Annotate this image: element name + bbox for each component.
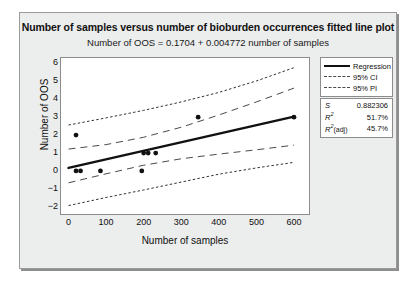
x-axis-title: Number of samples [61, 235, 309, 246]
y-tick-label: −1 [36, 184, 58, 193]
y-tick-label: −2 [36, 202, 58, 211]
x-tick-label: 400 [204, 218, 234, 227]
data-point [74, 169, 79, 174]
y-tick-label: 2 [36, 130, 58, 139]
chart-title: Number of samples versus number of biobu… [20, 21, 396, 33]
chart-panel: Number of samples versus number of biobu… [19, 12, 397, 269]
y-tick-label: 0 [36, 166, 58, 175]
stats-box: S0.882306R251.7%R2(adj)45.7% [320, 98, 393, 138]
stat-value: 45.7% [367, 124, 388, 134]
pi-bands [69, 68, 294, 206]
y-axis-tick-labels: 6543210−1−2 [32, 57, 58, 214]
stat-value: 51.7% [367, 113, 388, 123]
x-tick-label: 200 [129, 218, 159, 227]
plot-area [60, 57, 310, 215]
stat-key: S [325, 101, 330, 111]
ci-lower-curve [69, 145, 294, 183]
stat-value: 0.882306 [357, 101, 388, 111]
data-point [196, 115, 201, 120]
legend-item[interactable]: Regression [324, 61, 389, 71]
x-tick-label: 500 [241, 218, 271, 227]
data-point [146, 151, 151, 156]
data-point [141, 151, 146, 156]
legend-item[interactable]: 95% PI [324, 83, 389, 93]
legend: Regression95% CI95% PI [320, 57, 393, 97]
legend-label: Regression [353, 62, 391, 71]
legend-swatch-solid [324, 62, 350, 70]
pi-lower-curve [69, 162, 294, 205]
y-tick-label: 1 [36, 148, 58, 157]
stat-key: R2 [325, 111, 333, 123]
stat-key: R2(adj) [325, 123, 348, 135]
data-point [153, 151, 158, 156]
legend-item[interactable]: 95% CI [324, 72, 389, 82]
x-tick-label: 300 [166, 218, 196, 227]
x-axis-tick-labels: 0100200300400500600 [61, 218, 309, 230]
legend-label: 95% CI [353, 73, 378, 82]
legend-label: 95% PI [353, 84, 377, 93]
x-tick-label: 100 [91, 218, 121, 227]
stat-row: R251.7% [325, 111, 388, 123]
plot-canvas [61, 58, 309, 214]
data-point [78, 169, 83, 174]
data-point [98, 169, 103, 174]
stat-row: S0.882306 [325, 101, 388, 111]
pi-upper-curve [69, 68, 294, 125]
legend-swatch-dot [324, 84, 350, 92]
x-tick-label: 0 [54, 218, 84, 227]
y-tick-label: 3 [36, 112, 58, 121]
regression-line [69, 117, 294, 168]
y-tick-label: 5 [36, 76, 58, 85]
legend-swatch-dash [324, 73, 350, 81]
data-point [292, 115, 297, 120]
data-point [139, 169, 144, 174]
stat-row: R2(adj)45.7% [325, 123, 388, 135]
chart-subtitle: Number of OOS = 0.1704 + 0.004772 number… [20, 37, 396, 48]
y-tick-label: 6 [36, 58, 58, 67]
y-tick-label: 4 [36, 94, 58, 103]
x-tick-label: 600 [279, 218, 309, 227]
data-point [74, 133, 79, 138]
